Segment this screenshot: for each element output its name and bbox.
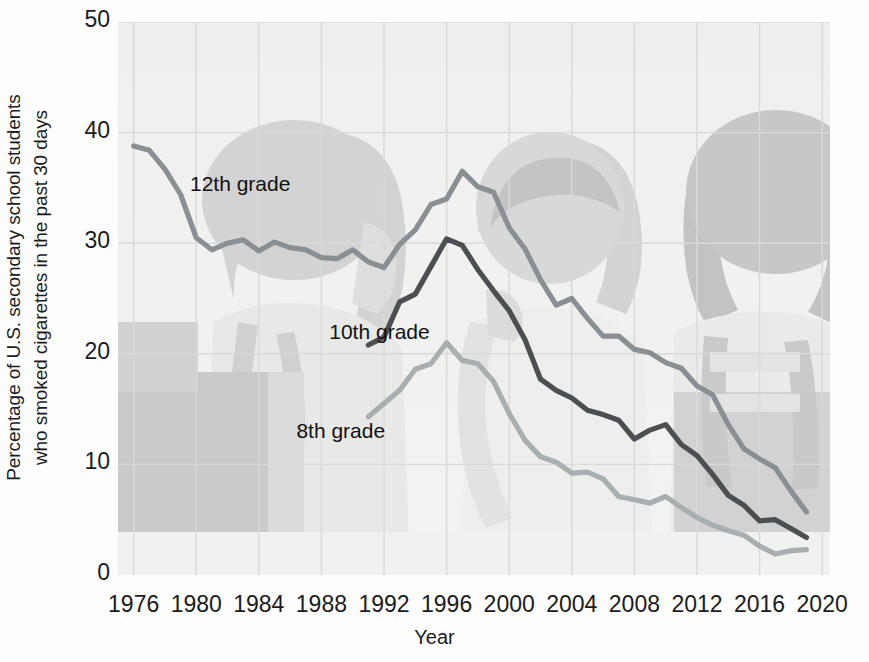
x-tick-label: 2000 [474,591,544,618]
y-axis-ticks: 01020304050 [52,0,110,585]
x-tick-label: 1996 [412,591,482,618]
series-label-grade8: 8th grade [296,419,385,443]
y-tick-label: 20 [56,338,110,365]
y-tick-label: 40 [56,117,110,144]
y-axis-title-line2: who smoked cigarettes in the past 30 day… [27,15,54,560]
plot-area: 12th grade 10th grade 8th grade [118,22,830,575]
y-tick-label: 30 [56,227,110,254]
data-lines [118,22,830,575]
series-label-grade10: 10th grade [329,320,429,344]
x-tick-label: 2008 [599,591,669,618]
y-tick-label: 50 [56,6,110,33]
x-tick-label: 1976 [99,591,169,618]
series-label-grade12: 12th grade [190,172,290,196]
x-tick-label: 1984 [224,591,294,618]
x-tick-label: 1992 [349,591,419,618]
x-tick-label: 2020 [787,591,857,618]
x-tick-label: 1988 [286,591,356,618]
x-tick-label: 2012 [662,591,732,618]
x-tick-label: 2004 [537,591,607,618]
x-axis-title: Year [0,626,869,649]
x-tick-label: 2016 [725,591,795,618]
y-tick-label: 0 [56,559,110,586]
chart-figure: Percentage of U.S. secondary school stud… [0,0,869,662]
y-axis-title-line1: Percentage of U.S. secondary school stud… [3,94,24,480]
x-tick-label: 1980 [161,591,231,618]
y-tick-label: 10 [56,448,110,475]
